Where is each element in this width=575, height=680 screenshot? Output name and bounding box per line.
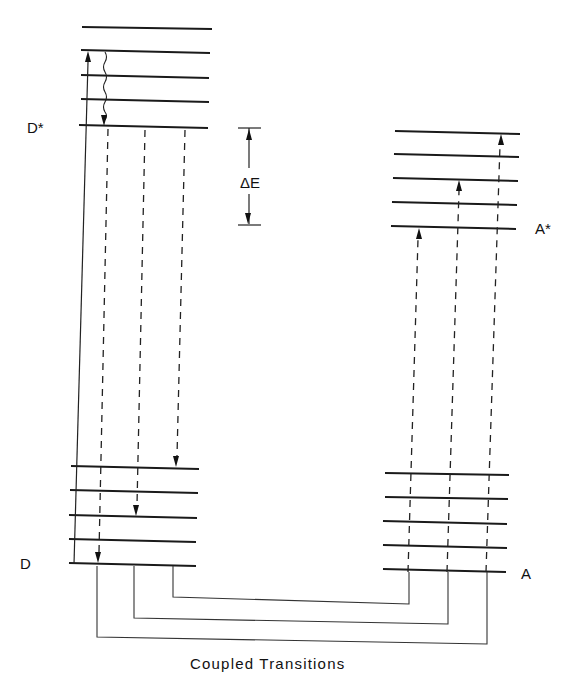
arrowhead-down-icon xyxy=(95,552,101,563)
absorption-arrow xyxy=(74,51,91,564)
arrowhead-down-icon xyxy=(133,505,139,516)
a-level-1 xyxy=(383,545,507,548)
coupling-connectors xyxy=(97,566,487,644)
arrowhead-up-icon xyxy=(498,134,504,145)
d-level-2 xyxy=(69,515,197,518)
arrowhead-up-icon xyxy=(416,228,422,239)
arrowhead-up-icon xyxy=(456,180,462,191)
a-level-3 xyxy=(385,497,508,499)
absorption-to-a-star-2 xyxy=(447,191,459,572)
d-star-level-0 xyxy=(79,125,208,128)
label-d: D xyxy=(20,555,31,572)
arrowhead-down-icon xyxy=(245,213,251,224)
energy-transfer-diagram: D* D A* A xyxy=(0,0,575,680)
d-level-1 xyxy=(69,539,196,542)
emission-to-d0 xyxy=(99,129,108,552)
a-level-2 xyxy=(383,521,507,524)
wavy-line xyxy=(104,52,107,120)
delta-e-bracket: ΔE xyxy=(238,128,261,225)
coupling-middle xyxy=(134,566,448,624)
a-star-level-4 xyxy=(395,131,520,134)
a-level-4 xyxy=(385,473,509,475)
d-star-level-1 xyxy=(81,99,209,102)
label-d-star: D* xyxy=(27,119,44,136)
acceptor-excited-manifold xyxy=(391,131,520,229)
caption: Coupled Transitions xyxy=(190,655,345,672)
arrowhead-up-icon xyxy=(246,129,252,140)
label-a-star: A* xyxy=(535,220,551,237)
delta-e-label: ΔE xyxy=(240,174,260,191)
arrowhead-up-icon xyxy=(85,51,91,62)
d-star-level-3 xyxy=(81,50,210,53)
a-level-0 xyxy=(383,569,506,572)
d-star-level-4 xyxy=(82,27,212,29)
coupling-outer xyxy=(97,566,487,644)
donor-emission-arrows xyxy=(95,129,185,563)
acceptor-absorption-arrows xyxy=(408,134,504,572)
absorption-to-a-star-4 xyxy=(486,145,500,572)
d-level-4 xyxy=(71,466,199,469)
arrowhead-down-icon xyxy=(101,115,107,126)
arrowhead-down-icon xyxy=(173,456,179,467)
coupling-inner xyxy=(173,566,409,604)
emission-to-d4 xyxy=(177,130,185,456)
emission-to-d2 xyxy=(137,130,145,505)
d-level-0 xyxy=(69,563,196,566)
donor-ground-manifold xyxy=(69,466,199,566)
label-a: A xyxy=(521,565,531,582)
donor-excited-manifold xyxy=(79,27,212,128)
absorption-line xyxy=(74,62,88,564)
vibrational-relaxation-arrow xyxy=(101,52,107,126)
d-level-3 xyxy=(70,490,198,493)
d-star-level-2 xyxy=(81,75,209,78)
acceptor-ground-manifold xyxy=(383,473,509,572)
